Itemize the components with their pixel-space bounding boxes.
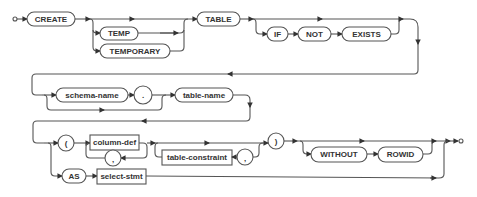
create-keyword: CREATE (27, 12, 75, 26)
column-def-ref: column-def (90, 135, 139, 150)
svg-text:): ) (275, 137, 278, 146)
constraint-comma-symbol: , (237, 149, 253, 165)
row-1: CREATE TEMP TEMPORARY TABLE (13, 12, 418, 95)
row-3: ( column-def , table-constraint , (44, 133, 463, 184)
svg-text:schema-name: schema-name (65, 91, 119, 100)
svg-text:,: , (112, 155, 114, 164)
row-2: schema-name . table-name (33, 86, 250, 143)
svg-text:table-name: table-name (183, 91, 226, 100)
schema-name-ref: schema-name (56, 88, 128, 102)
svg-text:NOT: NOT (306, 30, 323, 39)
end-circle (459, 139, 463, 143)
temp-keyword: TEMP (100, 27, 138, 40)
if-keyword: IF (267, 27, 288, 41)
lparen-symbol: ( (58, 135, 74, 151)
svg-text:(: ( (65, 139, 68, 148)
table-keyword: TABLE (197, 12, 240, 26)
exists-keyword: EXISTS (342, 27, 391, 41)
svg-text:select-stmt: select-stmt (100, 172, 143, 181)
svg-text:AS: AS (68, 172, 80, 181)
svg-text:WITHOUT: WITHOUT (320, 150, 357, 159)
table-constraint-ref: table-constraint (162, 150, 232, 165)
rowid-keyword: ROWID (378, 147, 423, 162)
svg-text:IF: IF (274, 30, 281, 39)
temporary-keyword: TEMPORARY (100, 44, 170, 58)
svg-text:,: , (244, 154, 246, 163)
dot-symbol: . (134, 86, 152, 104)
svg-text:ROWID: ROWID (387, 150, 415, 159)
svg-text:TEMP: TEMP (108, 29, 131, 38)
svg-text:TEMPORARY: TEMPORARY (110, 47, 161, 56)
not-keyword: NOT (298, 27, 331, 41)
select-stmt-ref: select-stmt (97, 169, 146, 184)
svg-text:CREATE: CREATE (35, 15, 68, 24)
column-comma-symbol: , (105, 150, 121, 166)
without-keyword: WITHOUT (311, 147, 367, 162)
rparen-symbol: ) (268, 133, 284, 149)
railroad-diagram: CREATE TEMP TEMPORARY TABLE (0, 0, 477, 197)
svg-text:TABLE: TABLE (205, 15, 232, 24)
as-keyword: AS (62, 169, 86, 183)
table-name-ref: table-name (175, 88, 233, 102)
svg-text:EXISTS: EXISTS (352, 30, 381, 39)
svg-text:column-def: column-def (93, 138, 136, 147)
svg-text:table-constraint: table-constraint (167, 153, 227, 162)
svg-text:.: . (142, 91, 144, 100)
start-circle (13, 17, 17, 21)
